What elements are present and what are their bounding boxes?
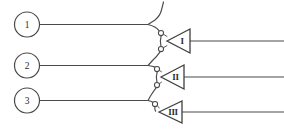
node-4-to-terminal-3-wire xyxy=(148,87,156,100)
amplifier-label-3: III xyxy=(168,107,178,117)
node-5-to-amp-3-wire xyxy=(155,107,156,112)
amplifier-triangle-1 xyxy=(167,29,190,53)
terminal-3-to-node-wire xyxy=(148,101,153,103)
amp-1-input-stub-bottom xyxy=(163,46,167,48)
terminal-label-2: 2 xyxy=(25,61,30,71)
junction-nodes xyxy=(152,30,163,106)
junction-node xyxy=(154,66,159,71)
junction-node xyxy=(158,46,163,51)
amp-1-input-stub-top xyxy=(163,34,167,36)
terminal-1-to-node-wire xyxy=(148,25,159,31)
junction-node xyxy=(158,30,163,35)
input-terminals: 1 2 3 xyxy=(15,12,40,113)
amplifier-output-wires xyxy=(182,41,284,112)
amp-2-input-stub-bottom xyxy=(159,82,161,84)
junction-node xyxy=(154,82,159,87)
node-2-to-terminal-2-wire xyxy=(148,51,160,65)
terminal-label-3: 3 xyxy=(25,96,30,106)
node-1-to-node-2-wire xyxy=(160,36,161,47)
terminal-label-1: 1 xyxy=(25,20,30,30)
node-3-to-node-4-wire xyxy=(156,72,157,83)
schematic-diagram: I II III 1 2 3 xyxy=(0,0,284,135)
amp-2-input-stub-top xyxy=(159,70,161,72)
junction-node xyxy=(152,101,157,106)
amp-3-input-stub xyxy=(157,106,159,108)
top-branch-up-wire xyxy=(148,2,164,25)
terminal-lead-wires xyxy=(40,25,149,101)
amplifier-label-2: II xyxy=(172,72,179,82)
terminal-2-to-node-wire xyxy=(148,66,155,68)
junction-branch-wires xyxy=(148,2,164,111)
schematic-canvas: I II III 1 2 3 xyxy=(0,0,284,135)
